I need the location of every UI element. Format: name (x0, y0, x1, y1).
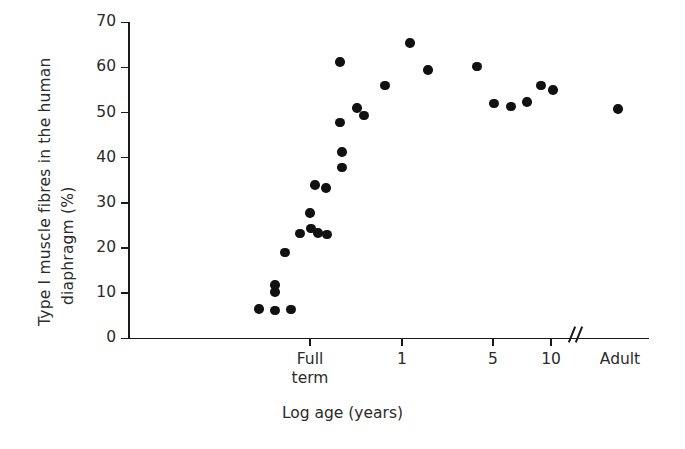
x-axis-tick-label: Adult (600, 350, 640, 368)
y-axis-tick (121, 67, 128, 69)
y-axis-title-line-2: diaphragm (%) (59, 187, 77, 305)
data-point (423, 65, 433, 75)
y-axis-tick-label: 70 (76, 12, 116, 30)
data-point (280, 248, 290, 258)
data-point (322, 230, 332, 240)
y-axis-tick-label: 50 (76, 103, 116, 121)
x-axis-tick-label: Fullterm (292, 350, 329, 387)
data-point (380, 81, 390, 91)
x-axis-tick-label: 5 (488, 350, 498, 368)
scatter-chart-figure: Type I muscle fibres in the human diaphr… (0, 0, 685, 449)
data-point (613, 104, 623, 114)
y-axis-tick-label: 30 (76, 193, 116, 211)
x-axis-tick (492, 338, 494, 346)
y-axis-tick (121, 22, 128, 24)
data-point (335, 57, 345, 67)
data-point (321, 183, 331, 193)
x-axis-tick (309, 338, 311, 346)
data-point (254, 304, 264, 314)
y-axis-tick (121, 112, 128, 114)
data-point (335, 118, 345, 128)
data-point (270, 306, 280, 316)
data-point (489, 99, 499, 109)
axis-break-icon (566, 326, 588, 344)
data-point (295, 229, 305, 239)
y-axis-line (128, 22, 130, 339)
y-axis-tick-label: 10 (76, 283, 116, 301)
data-point (548, 85, 558, 95)
x-axis-tick (550, 338, 552, 346)
x-axis-tick-label: 1 (397, 350, 407, 368)
data-point (305, 208, 315, 218)
data-point (506, 102, 516, 112)
y-axis-tick-label: 40 (76, 148, 116, 166)
data-point (286, 305, 296, 315)
y-axis-tick-label: 0 (76, 328, 116, 346)
y-axis-title-line-1: Type I muscle fibres in the human (36, 57, 54, 326)
y-axis-tick-label: 20 (76, 238, 116, 256)
y-axis-tick (121, 202, 128, 204)
y-axis-tick (121, 247, 128, 249)
data-point (472, 62, 482, 72)
x-axis-title: Log age (years) (0, 404, 685, 422)
data-point (310, 180, 320, 190)
data-point (337, 163, 347, 173)
y-axis-tick (121, 338, 128, 340)
data-point (536, 81, 546, 91)
data-point (359, 111, 369, 121)
data-point (405, 38, 415, 48)
y-axis-tick-label: 60 (76, 57, 116, 75)
x-axis-tick-label-second-line: term (292, 369, 329, 387)
data-point (522, 97, 532, 107)
y-axis-tick (121, 157, 128, 159)
x-axis-tick (401, 338, 403, 346)
data-point (270, 280, 280, 290)
y-axis-tick (121, 292, 128, 294)
data-point (337, 147, 347, 157)
x-axis-tick-label: 10 (541, 350, 561, 368)
